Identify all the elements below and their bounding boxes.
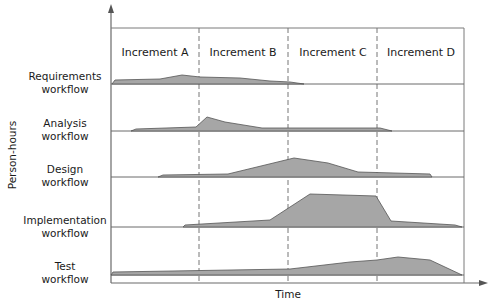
svg-text:Design: Design [47, 163, 83, 175]
implementation-effort-area [183, 194, 462, 227]
workflow-label-analysis: Analysis workflow [41, 117, 88, 142]
increment-label-b: Increment B [209, 46, 276, 59]
svg-text:workflow: workflow [41, 273, 88, 285]
svg-text:Requirements: Requirements [29, 70, 102, 82]
increment-label-c: Increment C [299, 46, 367, 59]
increment-label-d: Increment D [387, 46, 455, 59]
workflow-label-design: Design workflow [41, 163, 88, 188]
workflow-label-test: Test workflow [41, 260, 88, 285]
x-axis-arrow-icon [479, 280, 488, 286]
svg-text:Analysis: Analysis [43, 117, 86, 129]
analysis-effort-area [131, 117, 392, 131]
requirements-effort-area [112, 75, 304, 84]
increment-label-a: Increment A [121, 46, 189, 59]
x-axis-label: Time [274, 288, 301, 300]
svg-text:workflow: workflow [41, 83, 88, 95]
svg-text:workflow: workflow [41, 130, 88, 142]
svg-text:workflow: workflow [41, 227, 88, 239]
workflow-increment-diagram: Increment A Increment B Increment C Incr… [0, 0, 492, 305]
y-axis-label: Person-hours [6, 121, 18, 190]
workflow-label-requirements: Requirements workflow [29, 70, 102, 95]
workflow-label-implementation: Implementation workflow [23, 214, 106, 239]
y-axis-arrow-icon [108, 4, 114, 13]
test-effort-area [111, 257, 462, 275]
svg-text:workflow: workflow [41, 176, 88, 188]
svg-text:Test: Test [54, 260, 76, 272]
svg-text:Implementation: Implementation [23, 214, 106, 226]
